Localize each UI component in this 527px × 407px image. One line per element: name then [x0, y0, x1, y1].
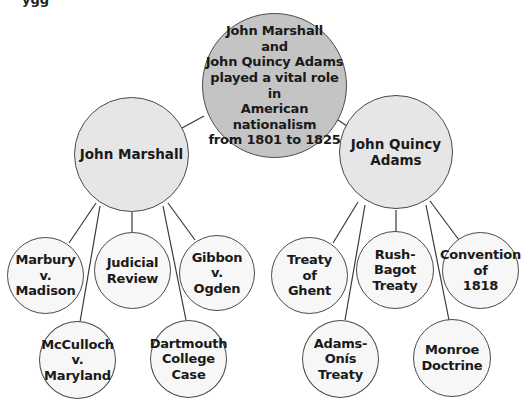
leaf-label: Judicial Review [107, 255, 159, 286]
leaf-node-mcculloch-v-maryland: McCulloch v. Maryland [39, 321, 116, 399]
leaf-label: Gibbon v. Ogden [192, 250, 243, 297]
branch-node-john-marshall: John Marshall [74, 97, 189, 212]
leaf-node-monroe-doctrine: Monroe Doctrine [413, 319, 491, 397]
leaf-label: McCulloch v. Maryland [41, 337, 113, 384]
leaf-label: Rush-Bagot Treaty [357, 247, 433, 294]
leaf-node-judicial-review: Judicial Review [94, 232, 171, 309]
root-node: John Marshall and John Quincy Adams play… [202, 13, 347, 158]
branch-label: John Quincy Adams [351, 136, 441, 168]
leaf-node-convention-of-1818: Convention of 1818 [442, 232, 519, 309]
concept-map: ygg John Marshall and John Quincy Adams … [0, 0, 527, 407]
leaf-label: Marbury v. Madison [15, 252, 75, 299]
leaf-node-dartmouth-college-case: Dartmouth College Case [150, 320, 227, 398]
branch-label: John Marshall [80, 146, 183, 162]
root-label: John Marshall and John Quincy Adams play… [203, 23, 346, 148]
leaf-label: Convention of 1818 [440, 247, 521, 294]
leaf-node-marbury-v-madison: Marbury v. Madison [7, 237, 84, 314]
leaf-node-treaty-of-ghent: Treaty of Ghent [271, 237, 348, 314]
leaf-label: Treaty of Ghent [287, 252, 332, 299]
branch-node-john-quincy-adams: John Quincy Adams [339, 95, 453, 209]
leaf-label: Adams-Onís Treaty [303, 336, 378, 383]
connector-root-marshall [182, 116, 204, 128]
leaf-node-gibbon-v-ogden: Gibbon v. Ogden [179, 235, 255, 311]
leaf-label: Monroe Doctrine [422, 342, 483, 373]
leaf-node-adams-onis-treaty: Adams-Onís Treaty [302, 320, 379, 398]
connector-marshall-gibbon [168, 203, 195, 240]
leaf-node-rush-bagot-treaty: Rush-Bagot Treaty [356, 231, 434, 309]
connector-adams-convention [430, 201, 459, 240]
connector-marshall-marbury [69, 203, 96, 243]
leaf-label: Dartmouth College Case [150, 336, 228, 383]
connector-adams-ghent [333, 202, 358, 243]
